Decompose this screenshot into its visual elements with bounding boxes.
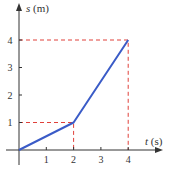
x-tick-label: 1 — [44, 154, 49, 165]
y-tick-label: 3 — [8, 62, 13, 73]
y-tick-label: 2 — [8, 90, 13, 101]
x-axis-label: t (s) — [145, 135, 163, 148]
position-time-chart: 1234 1234 s (m) t (s) — [0, 0, 172, 174]
y-ticks: 1234 — [8, 35, 23, 129]
x-tick-label: 3 — [98, 154, 103, 165]
x-tick-label: 2 — [71, 154, 76, 165]
y-tick-label: 1 — [8, 117, 13, 128]
x-axis-arrow-icon — [155, 147, 163, 153]
y-axis-label: s (m) — [26, 2, 49, 15]
y-axis-arrow-icon — [16, 3, 22, 11]
y-tick-label: 4 — [8, 35, 13, 46]
guide-lines — [19, 40, 128, 150]
x-tick-label: 4 — [126, 154, 131, 165]
